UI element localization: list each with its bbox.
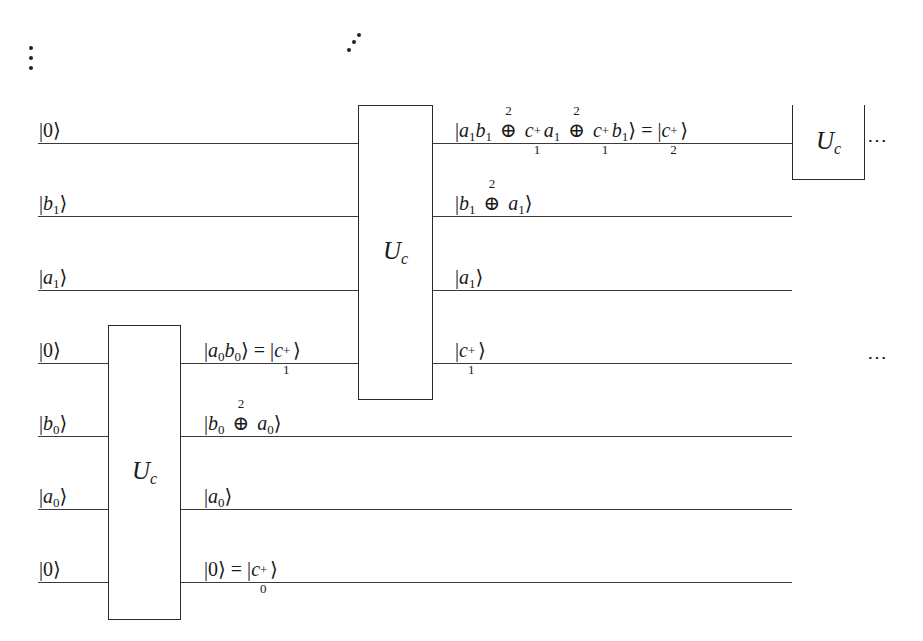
uc-gate-3: Uc	[792, 105, 865, 180]
diagonal-ellipsis-dot	[357, 33, 361, 37]
input-ket-0: |0⟩	[39, 559, 61, 579]
ket-a0-out: |a0⟩	[204, 486, 232, 509]
gate-label: Uc	[816, 127, 841, 158]
input-ket-a1: |a1⟩	[39, 267, 67, 290]
uc-gate-1: Uc	[108, 325, 181, 620]
ket-a1-out: |a1⟩	[455, 267, 483, 290]
continuation-ellipsis: ⋯	[867, 128, 888, 152]
input-ket-0: |0⟩	[39, 120, 61, 140]
ket-b1-oplus-a1: |b1 2⊕ a1⟩	[455, 193, 533, 216]
diagonal-ellipsis-dot	[352, 40, 356, 44]
gate-label: Uc	[383, 237, 408, 268]
uc-gate-2: Uc	[358, 105, 433, 400]
ket-0-eq-c0plus: |0⟩ = |c+0⟩	[204, 559, 278, 579]
diagonal-ellipsis-dot	[347, 48, 351, 52]
continuation-ellipsis: ⋯	[867, 345, 888, 369]
ket-a0b0-eq-c1plus: |a0b0⟩ = |c+1⟩	[204, 340, 301, 363]
input-ket-0: |0⟩	[39, 340, 61, 360]
vertical-ellipsis	[29, 46, 33, 76]
ket-c1plus-out: |c+1⟩	[455, 340, 486, 360]
ket-carry-c2plus: |a1b1 2⊕ c+1a1 2⊕ c+1b1⟩ = |c+2⟩	[455, 120, 688, 143]
ket-b0-oplus-a0: |b0 2⊕ a0⟩	[204, 413, 282, 436]
input-ket-b0: |b0⟩	[39, 413, 67, 436]
input-ket-b1: |b1⟩	[39, 193, 67, 216]
gate-label: Uc	[132, 457, 157, 488]
input-ket-a0: |a0⟩	[39, 486, 67, 509]
